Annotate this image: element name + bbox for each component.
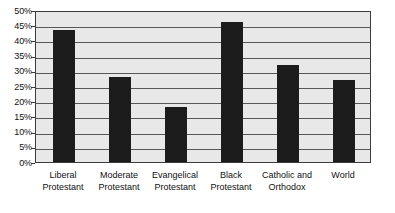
x-axis: LiberalProtestantModerateProtestantEvang… xyxy=(35,170,371,213)
bars-group xyxy=(36,12,370,162)
bar xyxy=(109,77,131,162)
y-axis: 50%45%40%35%30%25%20%15%10%5%0% xyxy=(0,0,32,163)
y-axis-tick-label: 20% xyxy=(0,98,32,107)
y-axis-tick-label: 25% xyxy=(0,83,32,92)
y-axis-tick-label: 50% xyxy=(0,7,32,16)
bar-chart: 50%45%40%35%30%25%20%15%10%5%0% LiberalP… xyxy=(0,0,395,213)
plot-area xyxy=(35,11,371,163)
bar xyxy=(277,65,299,162)
bar xyxy=(221,22,243,162)
y-axis-tick-label: 35% xyxy=(0,52,32,61)
bar xyxy=(333,80,355,162)
y-axis-tick-label: 40% xyxy=(0,37,32,46)
y-axis-tick-label: 45% xyxy=(0,22,32,31)
bar xyxy=(53,30,75,162)
y-axis-tick-label: 5% xyxy=(0,143,32,152)
x-axis-tick-label-line: World xyxy=(307,170,379,182)
y-axis-tick-mark xyxy=(31,163,35,164)
y-axis-tick-label: 30% xyxy=(0,67,32,76)
bar xyxy=(165,107,187,162)
y-axis-tick-label: 10% xyxy=(0,128,32,137)
x-axis-tick-label-line: Orthodox xyxy=(251,182,323,194)
x-axis-tick-label: World xyxy=(307,170,379,182)
y-axis-tick-label: 15% xyxy=(0,113,32,122)
y-axis-tick-label: 0% xyxy=(0,159,32,168)
